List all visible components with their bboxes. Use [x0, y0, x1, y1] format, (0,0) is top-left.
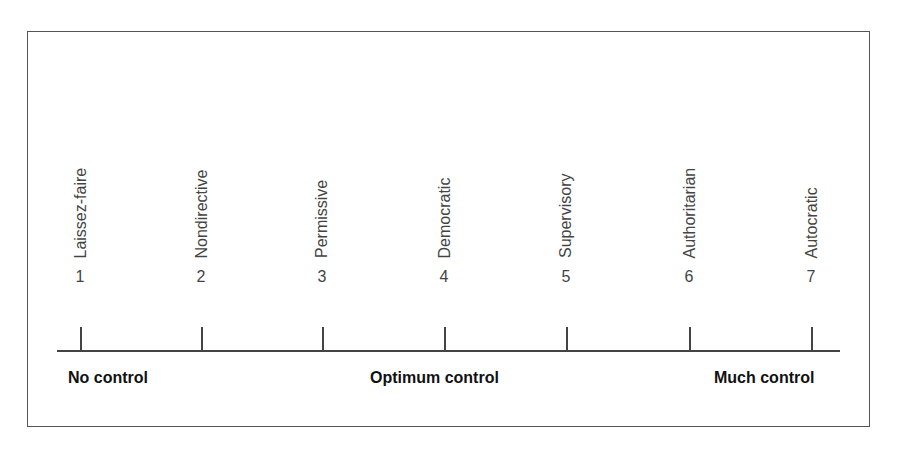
scale-label-text: Permissive — [313, 180, 331, 258]
scale-number: 4 — [429, 268, 459, 286]
scale-number: 7 — [796, 268, 826, 286]
scale-tick — [322, 327, 324, 351]
scale-tick — [444, 327, 446, 351]
scale-number: 5 — [551, 268, 581, 286]
scale-tick — [201, 327, 203, 351]
scale-label-text: Nondirective — [192, 169, 210, 258]
scale-label-text: Laissez-faire — [71, 167, 89, 258]
anchor-optimum-control: Optimum control — [370, 369, 499, 387]
scale-label-text: Democratic — [435, 177, 453, 258]
scale-number: 3 — [307, 268, 337, 286]
anchor-much-control: Much control — [714, 369, 814, 387]
anchor-no-control: No control — [68, 369, 148, 387]
scale-label-text: Autocratic — [802, 187, 820, 258]
scale-number: 2 — [186, 268, 216, 286]
scale-tick — [80, 327, 82, 351]
scale-label-text: Supervisory — [557, 174, 575, 258]
scale-label-text: Authoritarian — [680, 167, 698, 258]
scale-axis-line — [57, 350, 840, 352]
scale-tick — [689, 327, 691, 351]
scale-number: 1 — [65, 268, 95, 286]
scale-number: 6 — [674, 268, 704, 286]
scale-tick — [811, 327, 813, 351]
scale-tick — [566, 327, 568, 351]
